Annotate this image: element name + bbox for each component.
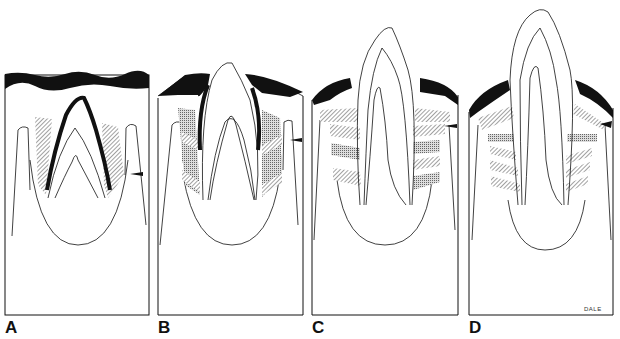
panel-label-a: A <box>5 318 17 338</box>
panel-b <box>158 63 303 315</box>
panel-label-c: C <box>312 318 324 338</box>
panel-d <box>469 10 613 315</box>
panel-a <box>5 71 149 315</box>
panel-label-d: D <box>469 318 481 338</box>
arrowhead-icon <box>444 124 457 128</box>
tooth-eruption-diagram <box>0 0 620 339</box>
panel-c <box>312 28 458 316</box>
artist-signature: DALE <box>584 306 602 312</box>
arrowhead-icon <box>290 138 302 142</box>
panel-label-b: B <box>158 318 170 338</box>
